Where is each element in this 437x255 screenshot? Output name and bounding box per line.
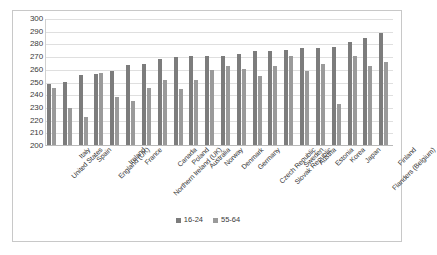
- bar-group: [78, 19, 94, 145]
- legend-swatch: [213, 218, 218, 223]
- bar[interactable]: [353, 56, 357, 145]
- x-axis: United StatesItalySpainEngland (UK)Irela…: [45, 146, 393, 218]
- bar-group: [125, 19, 141, 145]
- bar-group: [252, 19, 268, 145]
- bar[interactable]: [289, 56, 293, 145]
- y-axis-tick-label: 240: [17, 91, 43, 99]
- bar[interactable]: [68, 108, 72, 145]
- bar[interactable]: [221, 56, 225, 145]
- bar-group: [93, 19, 109, 145]
- bar-group: [347, 19, 363, 145]
- x-axis-tick-label: Japan: [364, 146, 382, 164]
- bar-group: [62, 19, 78, 145]
- bar[interactable]: [194, 80, 198, 145]
- bar-group: [204, 19, 220, 145]
- bar[interactable]: [332, 47, 336, 145]
- bar-group: [378, 19, 394, 145]
- bar[interactable]: [284, 50, 288, 145]
- bar-group: [173, 19, 189, 145]
- bar[interactable]: [226, 66, 230, 145]
- bar-group: [283, 19, 299, 145]
- bar-group: [315, 19, 331, 145]
- bar[interactable]: [237, 54, 241, 145]
- bar[interactable]: [158, 59, 162, 145]
- bar-group: [299, 19, 315, 145]
- bar-group: [141, 19, 157, 145]
- bar[interactable]: [47, 84, 51, 145]
- bar[interactable]: [110, 71, 114, 145]
- bar[interactable]: [189, 56, 193, 145]
- bar[interactable]: [99, 73, 103, 145]
- y-axis-tick-label: 260: [17, 66, 43, 74]
- y-axis-tick-label: 290: [17, 28, 43, 36]
- bar[interactable]: [174, 57, 178, 145]
- bar-group: [46, 19, 62, 145]
- bar[interactable]: [379, 33, 383, 145]
- chart-legend: 16-2455-64: [13, 213, 403, 227]
- bar-group: [267, 19, 283, 145]
- y-axis-tick-label: 200: [17, 142, 43, 150]
- bar[interactable]: [363, 38, 367, 145]
- bar[interactable]: [147, 88, 151, 145]
- chart-frame: 300290280270260250240230220210200 United…: [12, 10, 402, 242]
- y-axis-tick-label: 250: [17, 79, 43, 87]
- bar-group: [236, 19, 252, 145]
- bar[interactable]: [384, 62, 388, 145]
- bar[interactable]: [258, 76, 262, 145]
- bars-layer: [46, 19, 393, 145]
- bar[interactable]: [305, 71, 309, 145]
- legend-label: 55-64: [221, 216, 240, 224]
- bar[interactable]: [79, 75, 83, 145]
- y-axis-tick-label: 210: [17, 129, 43, 137]
- y-axis-tick-label: 230: [17, 104, 43, 112]
- bar[interactable]: [84, 117, 88, 145]
- bar[interactable]: [63, 82, 67, 146]
- bar[interactable]: [273, 66, 277, 145]
- bar-group: [331, 19, 347, 145]
- y-axis-tick-label: 300: [17, 15, 43, 23]
- bar-group: [188, 19, 204, 145]
- bar[interactable]: [205, 56, 209, 145]
- bar[interactable]: [300, 48, 304, 145]
- bar[interactable]: [337, 104, 341, 145]
- y-axis: 300290280270260250240230220210200: [13, 19, 43, 146]
- bar[interactable]: [126, 65, 130, 145]
- bar-group: [109, 19, 125, 145]
- y-axis-tick-label: 270: [17, 53, 43, 61]
- bar[interactable]: [210, 70, 214, 145]
- bar[interactable]: [348, 42, 352, 145]
- bar[interactable]: [253, 51, 257, 145]
- y-axis-tick-label: 220: [17, 117, 43, 125]
- bar[interactable]: [163, 80, 167, 145]
- bar[interactable]: [52, 88, 56, 145]
- bar[interactable]: [94, 74, 98, 145]
- legend-entry[interactable]: 16-24: [176, 216, 203, 224]
- bar[interactable]: [179, 89, 183, 145]
- bar[interactable]: [242, 69, 246, 145]
- legend-label: 16-24: [184, 216, 203, 224]
- bar-group: [362, 19, 378, 145]
- bar[interactable]: [115, 97, 119, 145]
- legend-entry[interactable]: 55-64: [213, 216, 240, 224]
- bar-group: [157, 19, 173, 145]
- bar-group: [220, 19, 236, 145]
- legend-swatch: [176, 218, 181, 223]
- y-axis-tick-label: 280: [17, 40, 43, 48]
- bar[interactable]: [368, 66, 372, 145]
- bar[interactable]: [142, 64, 146, 145]
- bar[interactable]: [316, 48, 320, 145]
- bar[interactable]: [268, 51, 272, 145]
- bar[interactable]: [321, 64, 325, 145]
- plot-area: [45, 19, 393, 146]
- bar[interactable]: [131, 101, 135, 145]
